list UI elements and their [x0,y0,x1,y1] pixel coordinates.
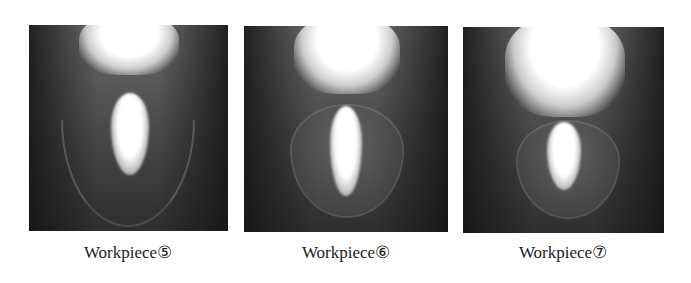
caption-workpiece-6: Workpiece⑥ [246,242,446,263]
torch-glare [505,27,625,117]
torch-glare [294,26,400,94]
weld-pool-image-workpiece-7 [463,27,664,233]
weld-pool-image-workpiece-6 [244,26,448,232]
caption-workpiece-7: Workpiece⑦ [463,242,663,263]
caption-workpiece-5: Workpiece⑤ [28,242,228,263]
torch-glare [79,25,179,75]
weld-pool-image-workpiece-5 [29,25,228,231]
